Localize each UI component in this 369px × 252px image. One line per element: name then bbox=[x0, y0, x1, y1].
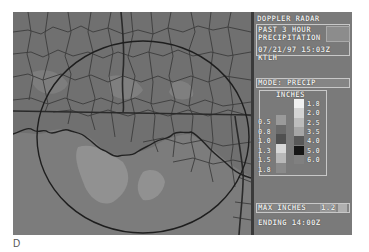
ending-time: ENDING 14:00Z bbox=[258, 219, 321, 227]
legend-left-label: 1.0 bbox=[258, 138, 271, 145]
legend-right-label: 2.5 bbox=[307, 120, 320, 127]
legend-left-swatch bbox=[276, 144, 286, 154]
legend-left-label: 1.3 bbox=[258, 148, 271, 155]
radar-display: DOPPLER RADAR PAST 3 HOUR PRECIPITATION … bbox=[13, 12, 352, 235]
legend-left-swatch bbox=[276, 134, 286, 144]
legend-right-swatch bbox=[294, 118, 304, 127]
mode-label: MODE: bbox=[258, 79, 282, 87]
legend-left-label: 0.5 bbox=[258, 119, 271, 126]
legend-left-swatch bbox=[276, 153, 286, 163]
legend-right-swatch bbox=[294, 108, 304, 117]
legend-left-swatch bbox=[276, 125, 286, 135]
station-id: KTLH bbox=[258, 54, 277, 62]
legend-right-label: 1.8 bbox=[307, 101, 320, 108]
legend-units: INCHES bbox=[276, 91, 305, 99]
info-panel: DOPPLER RADAR PAST 3 HOUR PRECIPITATION … bbox=[251, 12, 352, 235]
legend-left-label: 1.8 bbox=[258, 167, 271, 174]
legend-left-label: 1.5 bbox=[258, 157, 271, 164]
legend-left-swatch bbox=[276, 163, 286, 173]
legend-right-label: 2.0 bbox=[307, 110, 320, 117]
legend-right-swatch bbox=[294, 146, 304, 155]
legend-right-swatch bbox=[294, 155, 304, 164]
mode-value: PRECIP bbox=[287, 79, 316, 87]
map-svg bbox=[13, 12, 251, 235]
product-color-chip bbox=[326, 26, 350, 42]
max-color-chip bbox=[338, 204, 347, 212]
figure-caption: D bbox=[13, 238, 20, 249]
legend-right-swatch bbox=[294, 127, 304, 136]
legend-right-label: 3.5 bbox=[307, 129, 320, 136]
panel-title: DOPPLER RADAR bbox=[257, 15, 320, 23]
max-value: 1.2 bbox=[320, 204, 336, 212]
legend-left-swatch bbox=[276, 115, 286, 125]
legend-right-swatch bbox=[294, 136, 304, 145]
legend-right-swatch bbox=[294, 99, 304, 108]
legend-right-label: 6.0 bbox=[307, 157, 320, 164]
max-label: MAX INCHES bbox=[258, 204, 306, 212]
legend-right-label: 5.0 bbox=[307, 148, 320, 155]
legend-left-label: 0.8 bbox=[258, 129, 271, 136]
legend-right-label: 4.0 bbox=[307, 138, 320, 145]
radar-map bbox=[13, 12, 251, 235]
product-line-2: PRECIPITATION bbox=[258, 34, 321, 42]
